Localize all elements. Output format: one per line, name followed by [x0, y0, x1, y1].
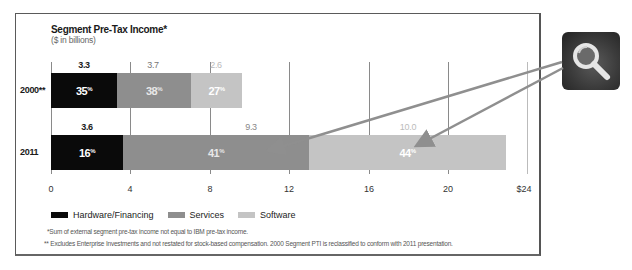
bar-2011-services: 41% [123, 135, 309, 170]
value-2011-software: 10.0 [400, 122, 416, 132]
pct-sign: % [411, 148, 416, 154]
row-label-2000: 2000** [20, 85, 45, 95]
x-tick-20: 20 [443, 184, 453, 194]
pct-sign: % [220, 86, 225, 92]
x-tick-12: 12 [284, 184, 294, 194]
bar-2011-software: 44% [309, 135, 506, 170]
x-tick-0: 0 [48, 184, 53, 194]
legend-swatch-hardware [51, 212, 68, 218]
legend-label-services: Services [190, 210, 225, 220]
x-tick-4: 4 [127, 184, 132, 194]
pct-2011-services: 41 [208, 147, 219, 159]
chart-subtitle: ($ in billions) [51, 35, 96, 45]
value-2011-services: 9.3 [245, 122, 257, 132]
magnifier-icon [562, 32, 620, 90]
pct-2000-hardware: 35 [76, 85, 87, 97]
legend-swatch-software [238, 212, 255, 218]
legend-item-services: Services [168, 210, 225, 220]
bar-2000-software: 27% [191, 73, 242, 108]
row-label-2011: 2011 [20, 147, 38, 157]
magnifier-button[interactable] [562, 32, 620, 90]
x-tick-24: $24 [516, 184, 531, 194]
pct-2000-services: 38 [146, 85, 157, 97]
value-2000-hardware: 3.3 [78, 60, 90, 70]
value-2011-hardware: 3.6 [81, 122, 93, 132]
bar-2011-hardware: 16% [51, 135, 123, 170]
pct-sign: % [219, 148, 224, 154]
chart-legend: Hardware/Financing Services Software [51, 210, 310, 220]
x-tick-8: 8 [207, 184, 212, 194]
x-tick-16: 16 [364, 184, 374, 194]
bar-2000-hardware: 35% [51, 73, 117, 108]
legend-item-hardware: Hardware/Financing [51, 210, 154, 220]
footnote-1: *Sum of external segment pre-tax income … [47, 228, 248, 235]
pct-sign: % [87, 86, 92, 92]
legend-item-software: Software [238, 210, 296, 220]
legend-label-software: Software [260, 210, 296, 220]
pct-sign: % [90, 148, 95, 154]
gridline-24 [527, 62, 528, 174]
footnote-2: ** Excludes Enterprise Investments and n… [44, 240, 453, 247]
legend-label-hardware: Hardware/Financing [73, 210, 154, 220]
pct-sign: % [157, 86, 162, 92]
pct-2000-software: 27 [208, 85, 219, 97]
value-2000-services: 3.7 [147, 60, 159, 70]
pct-2011-software: 44 [399, 147, 410, 159]
legend-swatch-services [168, 212, 185, 218]
bar-2000-services: 38% [117, 73, 191, 108]
pct-2011-hardware: 16 [79, 147, 90, 159]
value-2000-software: 2.6 [210, 60, 222, 70]
chart-title: Segment Pre-Tax Income* [51, 24, 167, 35]
